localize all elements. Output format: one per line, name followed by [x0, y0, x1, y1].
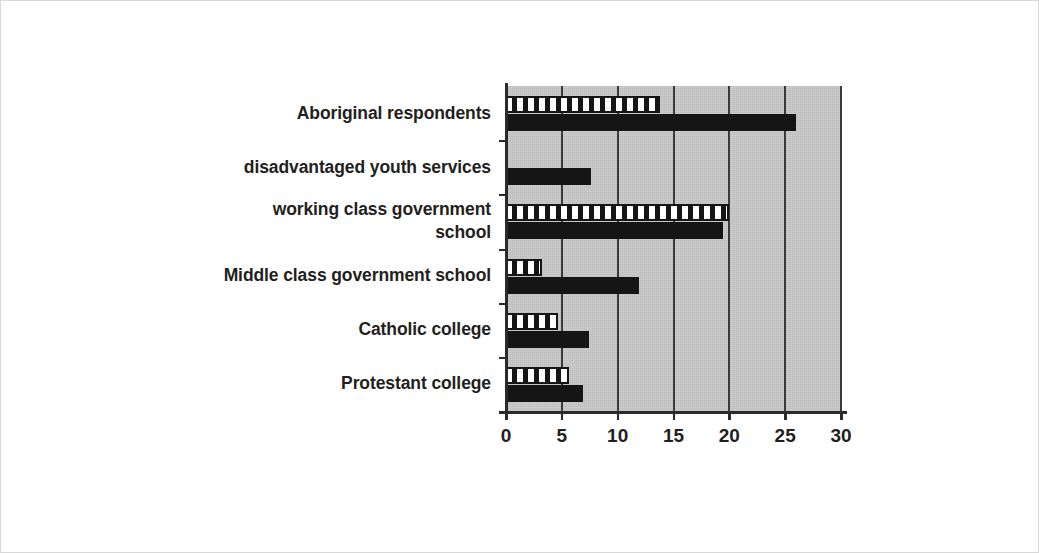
value-tick-label: 15 [663, 425, 684, 447]
gridline [728, 86, 730, 411]
category-label: Protestant college [341, 357, 491, 411]
category-label: Middle class government school [224, 249, 491, 303]
value-tick-label: 5 [557, 425, 568, 447]
chart-page: Aboriginal respondentsdisadvantaged yout… [0, 0, 1039, 553]
value-tick-label: 30 [830, 425, 851, 447]
bar-male [506, 96, 660, 113]
category-label: disadvantaged youth services [244, 140, 491, 194]
value-tick [561, 411, 564, 420]
value-tick [784, 411, 787, 420]
bar-female [506, 168, 591, 185]
bar-male [506, 367, 569, 384]
gridline [673, 86, 675, 411]
gridline [617, 86, 619, 411]
bar-female [506, 331, 589, 348]
gridline [784, 86, 786, 411]
bar-male [506, 204, 729, 221]
bar-female [506, 222, 723, 239]
gridline [561, 86, 563, 411]
category-label: Aboriginal respondents [297, 86, 491, 140]
value-tick-label: 10 [607, 425, 628, 447]
category-label: Catholic college [358, 303, 491, 357]
value-tick-label: 25 [775, 425, 796, 447]
horizontal-bar-chart: Aboriginal respondentsdisadvantaged yout… [1, 1, 1039, 553]
plot-area: male female [506, 86, 841, 411]
value-tick [673, 411, 676, 420]
value-axis-line [505, 83, 508, 414]
gridline [840, 86, 842, 411]
value-tick-label: 0 [501, 425, 512, 447]
bar-female [506, 114, 796, 131]
bar-female [506, 277, 639, 294]
category-label: working class governmentschool [273, 194, 491, 248]
value-tick-label: 20 [719, 425, 740, 447]
bar-male [506, 259, 542, 276]
bar-female [506, 385, 583, 402]
category-axis-labels: Aboriginal respondentsdisadvantaged yout… [121, 86, 499, 411]
value-tick [728, 411, 731, 420]
value-tick [840, 411, 843, 420]
value-tick [505, 411, 508, 420]
bar-male [506, 313, 558, 330]
value-tick [617, 411, 620, 420]
